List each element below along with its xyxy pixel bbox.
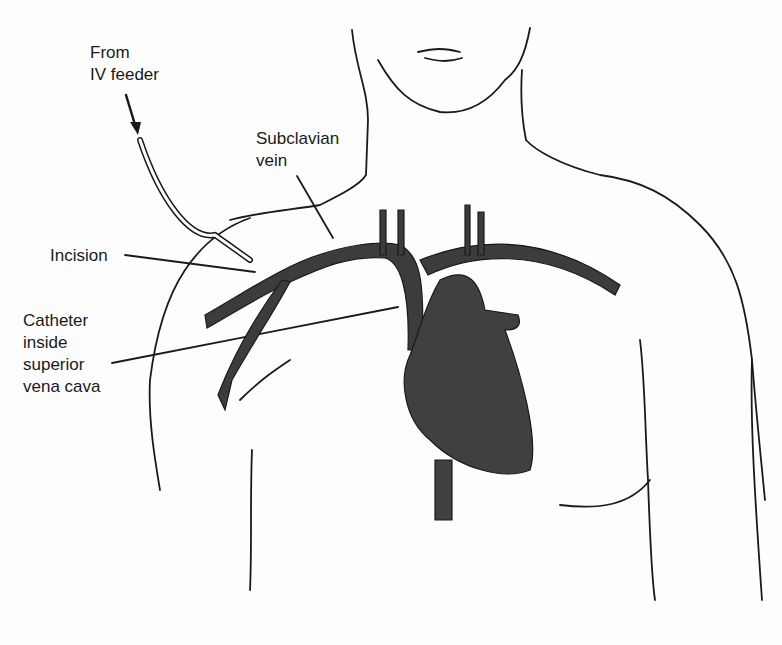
label-subclavian-vein: Subclavian vein bbox=[256, 128, 339, 172]
iv-tube bbox=[140, 140, 250, 260]
neck-right-outline bbox=[521, 70, 765, 500]
label-incision: Incision bbox=[50, 245, 108, 267]
left-pectoral bbox=[240, 360, 290, 400]
right-arm-outer bbox=[752, 360, 762, 600]
neck-left-outline bbox=[230, 30, 368, 220]
heart bbox=[404, 275, 532, 474]
jaw-outline bbox=[378, 28, 530, 112]
mouth bbox=[418, 49, 462, 61]
diagram-canvas: From IV feeder Subclavian vein Incision … bbox=[0, 0, 782, 645]
right-arm-inner bbox=[640, 340, 655, 600]
incision-pointer bbox=[125, 255, 255, 272]
descending-aorta bbox=[435, 460, 452, 520]
right-pectoral bbox=[560, 480, 650, 507]
subclavian-vein bbox=[205, 243, 423, 350]
label-iv-feeder: From IV feeder bbox=[90, 42, 159, 86]
label-catheter: Catheter inside superior vena cava bbox=[23, 310, 101, 398]
left-shoulder-outline bbox=[150, 218, 250, 490]
left-arm-inner bbox=[250, 450, 252, 590]
arrow-head-icon bbox=[130, 122, 141, 135]
anatomy-illustration bbox=[0, 0, 782, 645]
